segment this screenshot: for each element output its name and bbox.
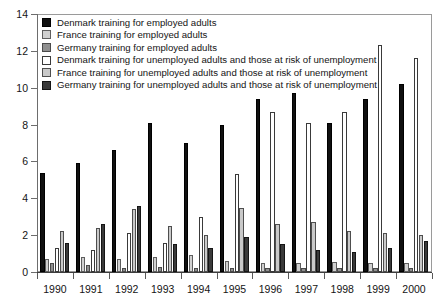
- bar-germany-employed-1999: [373, 268, 377, 272]
- bar-germany-employed-1991: [86, 265, 90, 272]
- x-tick-mark: [288, 273, 289, 279]
- bar-germany-employed-1995: [230, 268, 234, 272]
- grouped-bar-chart: 02468101214 1990199119921993199419951996…: [0, 0, 439, 304]
- bar-germany-employed-1990: [50, 263, 54, 272]
- bar-germany-unemployed-1993: [173, 244, 177, 272]
- bar-germany-employed-1994: [194, 268, 198, 272]
- bar-france-employed-1991: [81, 257, 85, 272]
- bar-france-employed-1995: [225, 261, 229, 272]
- x-tick-mark: [217, 273, 218, 279]
- bar-france-unemployed-1991: [96, 228, 100, 272]
- x-tick-mark: [37, 273, 38, 279]
- bar-denmark-employed-1997: [292, 93, 296, 272]
- bar-denmark-unemployed-1995: [235, 174, 239, 272]
- bar-france-unemployed-1999: [383, 233, 387, 272]
- bar-denmark-unemployed-1992: [127, 233, 131, 272]
- legend-label: Denmark training for employed adults: [57, 18, 216, 28]
- bar-denmark-employed-1998: [327, 123, 331, 272]
- bar-france-unemployed-1993: [168, 226, 172, 272]
- legend-item: France training for unemployed adults an…: [42, 66, 362, 79]
- y-tick-label: 4: [2, 192, 28, 204]
- x-tick-mark: [73, 273, 74, 279]
- bar-germany-employed-1998: [337, 268, 341, 272]
- x-tick-label: 1990: [43, 283, 66, 295]
- bar-denmark-unemployed-1991: [91, 250, 95, 272]
- bar-germany-unemployed-1991: [101, 224, 105, 272]
- legend-label: Germany training for employed adults: [57, 43, 217, 53]
- x-tick-label: 1997: [295, 283, 318, 295]
- bar-denmark-unemployed-1997: [306, 123, 310, 272]
- x-tick-mark: [432, 273, 433, 279]
- bar-denmark-unemployed-1996: [270, 112, 274, 272]
- bar-germany-unemployed-2000: [424, 241, 428, 272]
- x-tick-label: 1993: [151, 283, 174, 295]
- bar-france-employed-1990: [45, 259, 49, 272]
- bar-germany-employed-1997: [301, 268, 305, 272]
- legend-swatch-france-unemployed-icon: [42, 68, 51, 77]
- bar-germany-employed-1992: [122, 268, 126, 272]
- bar-france-employed-1993: [153, 257, 157, 272]
- bar-denmark-employed-1991: [76, 163, 80, 272]
- legend-item: Denmark training for employed adults: [42, 16, 362, 29]
- bar-denmark-employed-1999: [363, 99, 367, 272]
- y-tick-label: 10: [2, 82, 28, 94]
- y-tick-label: 0: [2, 266, 28, 278]
- x-tick-label: 1998: [331, 283, 354, 295]
- bar-germany-employed-1993: [158, 267, 162, 272]
- bar-france-unemployed-1998: [347, 231, 351, 272]
- bar-france-unemployed-1992: [132, 209, 136, 272]
- bar-france-unemployed-1995: [239, 208, 243, 273]
- x-tick-label: 2000: [402, 283, 425, 295]
- bar-denmark-employed-1990: [40, 173, 44, 273]
- bar-france-unemployed-1996: [275, 224, 279, 272]
- bar-germany-unemployed-1995: [244, 237, 248, 272]
- legend-swatch-germany-employed-icon: [42, 43, 51, 52]
- bar-france-unemployed-1990: [60, 231, 64, 272]
- bar-denmark-employed-1995: [220, 125, 224, 272]
- x-tick-label: 1994: [187, 283, 210, 295]
- bar-germany-unemployed-1992: [137, 206, 141, 272]
- x-tick-mark: [145, 273, 146, 279]
- legend-label: Germany training for unemployed adults a…: [57, 80, 377, 90]
- bar-germany-unemployed-1990: [65, 243, 69, 272]
- bar-germany-unemployed-1994: [208, 248, 212, 272]
- y-tick-label: 12: [2, 45, 28, 57]
- bar-denmark-unemployed-1999: [378, 45, 382, 272]
- bar-germany-unemployed-1996: [280, 244, 284, 272]
- bar-france-employed-1994: [189, 255, 193, 272]
- legend-swatch-denmark-unemployed-icon: [42, 56, 51, 65]
- legend-swatch-germany-unemployed-icon: [42, 81, 51, 90]
- x-tick-label: 1991: [79, 283, 102, 295]
- x-tick-mark: [360, 273, 361, 279]
- x-tick-mark: [396, 273, 397, 279]
- x-tick-mark: [324, 273, 325, 279]
- x-tick-label: 1992: [115, 283, 138, 295]
- x-axis-line: [37, 272, 432, 273]
- x-tick-label: 1999: [366, 283, 389, 295]
- x-tick-mark: [252, 273, 253, 279]
- y-tick-label: 6: [2, 155, 28, 167]
- bar-germany-unemployed-1997: [316, 250, 320, 272]
- bar-france-unemployed-1994: [204, 235, 208, 272]
- bar-denmark-employed-1994: [184, 143, 188, 272]
- x-tick-label: 1996: [259, 283, 282, 295]
- y-tick-label: 2: [2, 229, 28, 241]
- bar-denmark-employed-1993: [148, 123, 152, 272]
- bar-denmark-employed-1992: [112, 150, 116, 272]
- bar-denmark-unemployed-1994: [199, 217, 203, 272]
- bar-germany-employed-1996: [265, 268, 269, 272]
- legend-label: Denmark training for unemployed adults a…: [57, 55, 376, 65]
- bar-france-employed-2000: [404, 263, 408, 272]
- legend-label: France training for unemployed adults an…: [57, 68, 367, 78]
- bar-denmark-unemployed-2000: [414, 58, 418, 272]
- bar-france-employed-1999: [368, 263, 372, 272]
- legend-swatch-denmark-employed-icon: [42, 18, 51, 27]
- legend-label: France training for employed adults: [57, 30, 207, 40]
- x-tick-mark: [181, 273, 182, 279]
- bar-germany-unemployed-1998: [352, 252, 356, 272]
- bar-france-unemployed-2000: [419, 235, 423, 272]
- chart-legend: Denmark training for employed adultsFran…: [42, 16, 362, 92]
- bar-france-unemployed-1997: [311, 222, 315, 272]
- legend-item: Germany training for unemployed adults a…: [42, 79, 362, 92]
- y-tick-label: 14: [2, 8, 28, 20]
